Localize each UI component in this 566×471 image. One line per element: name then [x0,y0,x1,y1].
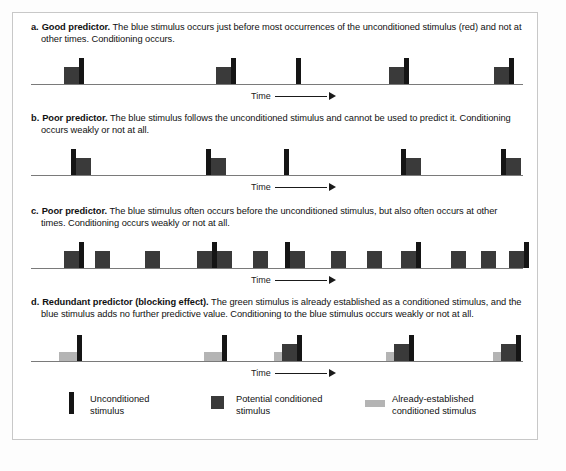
panel-d-letter: d. [31,297,39,307]
panel-b-letter: b. [31,113,39,123]
panel-c-time-arrow: Time [251,273,336,287]
arrow-head-icon [329,276,336,284]
legend-label-potential-conditioned-stimulus: Potential conditioned stimulus [236,391,322,417]
panel-d: d.Redundant predictor (blocking effect).… [13,296,539,386]
stimulus-bar-cs [95,251,110,268]
stimulus-bar-us [509,58,514,84]
stimulus-bar-us [77,335,82,361]
arrow-line-icon [275,373,327,374]
cs-square-swatch-icon [209,391,229,415]
figure-frame: a.Good predictor. The blue stimulus occu… [12,12,538,440]
us-bar-swatch-icon [63,391,83,415]
panel-a-letter: a. [31,22,39,32]
stimulus-bar-us [231,58,236,84]
stimulus-bar-us [297,335,302,361]
panel-b-axis [31,175,523,176]
panel-b-time-label: Time [251,182,271,192]
panel-a: a.Good predictor. The blue stimulus occu… [13,21,539,109]
stimulus-bar-cs [253,251,268,268]
panel-b-caption: b.Poor predictor. The blue stimulus foll… [31,112,523,137]
panel-b-time-arrow: Time [251,180,336,194]
panel-d-time-arrow: Time [251,366,336,380]
stimulus-bar-us [296,58,301,84]
panel-c-timeline [31,235,523,269]
panel-a-caption: a.Good predictor. The blue stimulus occu… [31,21,523,46]
stimulus-bar-est [204,352,222,361]
panel-d-timeline [31,328,523,362]
stimulus-bar-cs [506,158,521,175]
legend-item-potential-conditioned-stimulus: Potential conditioned stimulus [209,391,322,417]
panel-d-caption: d.Redundant predictor (blocking effect).… [31,296,523,321]
stimulus-bar-cs [406,158,421,175]
stimulus-bar-cs [64,67,79,84]
stimulus-bar-cs [367,251,382,268]
stimulus-bar-cs [197,251,212,268]
legend-label-unconditioned-stimulus: Unconditioned stimulus [90,391,149,417]
arrow-head-icon [329,183,336,191]
panel-a-lead: Good predictor. [42,22,110,32]
stimulus-bar-cs [389,67,404,84]
panel-a-body: The blue stimulus occurs just before mos… [41,22,521,44]
stimulus-bar-cs [76,158,91,175]
panel-d-lead: Redundant predictor (blocking effect). [42,297,208,307]
panel-d-time-label: Time [251,368,271,378]
stimulus-bar-cs [211,158,226,175]
stimulus-bar-cs [64,251,79,268]
stimulus-bar-us [409,335,414,361]
panel-b-lead: Poor predictor. [42,113,107,123]
stimulus-bar-cs [331,251,346,268]
stimulus-bar-cs [509,251,524,268]
arrow-head-icon [329,92,336,100]
stimulus-bar-cs [494,67,509,84]
stimulus-bar-cs [451,251,466,268]
panel-c-axis [31,268,523,269]
stimulus-bar-cs [145,251,160,268]
stimulus-bar-cs [217,251,232,268]
panel-d-axis [31,361,523,362]
panel-c-time-label: Time [251,275,271,285]
panel-b-timeline [31,142,523,176]
stimulus-bar-us [516,335,521,361]
established-cs-swatch-icon [365,391,385,415]
stimulus-bar-cs [216,67,231,84]
panel-a-time-arrow: Time [251,89,336,103]
panel-a-time-label: Time [251,91,271,101]
panel-b-body: The blue stimulus follows the unconditio… [41,113,511,135]
stimulus-bar-cs [481,251,496,268]
panel-c-letter: c. [31,206,39,216]
stimulus-bar-us [524,242,529,268]
stimulus-bar-us [79,58,84,84]
stimulus-bar-us [222,335,227,361]
legend-item-already-established-conditioned-stimulus: Already-established conditioned stimulus [365,391,476,417]
stimulus-bar-cs [282,344,297,361]
stimulus-bar-us [284,149,289,175]
panel-c: c.Poor predictor. The blue stimulus ofte… [13,205,539,293]
stimulus-bar-cs [290,251,305,268]
panel-c-body: The blue stimulus often occurs before th… [41,206,497,228]
arrow-line-icon [275,280,327,281]
arrow-head-icon [329,369,336,377]
arrow-line-icon [275,187,327,188]
panel-c-caption: c.Poor predictor. The blue stimulus ofte… [31,205,523,230]
legend-item-unconditioned-stimulus: Unconditioned stimulus [63,391,149,417]
panel-a-axis [31,84,523,85]
panel-a-timeline [31,51,523,85]
stimulus-bar-us [79,242,84,268]
arrow-line-icon [275,96,327,97]
stimulus-bar-cs [501,344,516,361]
panel-c-lead: Poor predictor. [42,206,107,216]
legend-label-already-established-conditioned-stimulus: Already-established conditioned stimulus [392,391,476,417]
panel-b: b.Poor predictor. The blue stimulus foll… [13,112,539,200]
stimulus-bar-cs [394,344,409,361]
figure-legend: Unconditioned stimulus Potential conditi… [13,391,539,431]
figure-root: a.Good predictor. The blue stimulus occu… [0,0,566,471]
stimulus-bar-cs [401,251,416,268]
stimulus-bar-est [59,352,77,361]
stimulus-bar-us [416,242,421,268]
stimulus-bar-us [404,58,409,84]
